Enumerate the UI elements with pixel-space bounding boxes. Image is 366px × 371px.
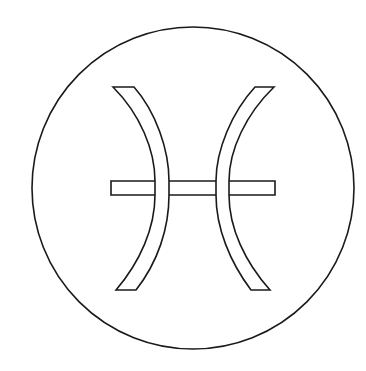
outer-circle bbox=[32, 27, 354, 349]
pisces-symbol-icon: Pisces bbox=[0, 0, 366, 371]
